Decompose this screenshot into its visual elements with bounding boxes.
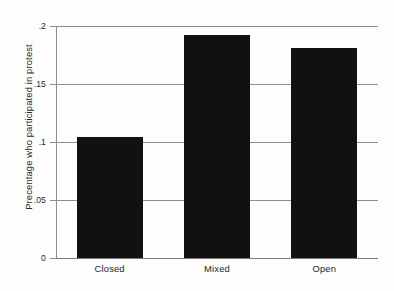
gridline [56,258,378,259]
x-axis-label-closed: Closed [56,263,163,274]
bar-chart-figure: Precentage who participated in protest .… [0,0,394,291]
x-axis-label-open: Open [271,263,378,274]
gridline [56,26,378,27]
x-axis-label-mixed: Mixed [163,263,270,274]
y-axis-tick-label-wrap: .2 [0,21,46,31]
y-axis-tick-label-wrap: .05 [0,195,46,205]
y-axis-title: Precentage who participated in protest [22,2,36,252]
y-axis-tick-label-wrap: .1 [0,137,46,147]
bar-mixed [184,35,250,258]
y-axis-tick-label: .15 [4,79,46,89]
bar-open [291,48,357,258]
plot-area [56,26,378,258]
y-axis-tick-label: .2 [4,21,46,31]
y-axis-tick-label: .05 [4,195,46,205]
y-axis-tick-label: 0 [4,253,46,263]
y-axis-tick-label-wrap: 0 [0,253,46,263]
y-axis-tick-label: .1 [4,137,46,147]
y-axis-tick-label-wrap: .15 [0,79,46,89]
bar-closed [77,137,143,258]
